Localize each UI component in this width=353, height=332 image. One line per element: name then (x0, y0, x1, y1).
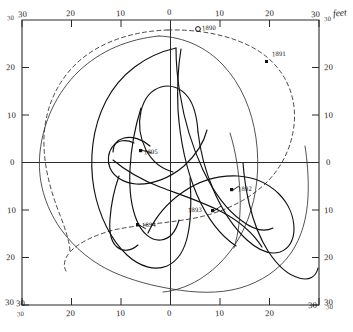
tick-label-bottom-4: 0 (167, 308, 172, 318)
polar-wander-chart: 30 20 10 0 10 20 30 30 30 feet 30 20 10 … (0, 0, 353, 332)
tick-label-right-3: 0 (326, 157, 331, 167)
top-axis-ticks (22, 20, 319, 27)
tick-label-top-7: 30 (311, 9, 321, 19)
tick-label-left-5: 20 (6, 252, 16, 262)
tick-label-left-4: 10 (7, 205, 17, 215)
annotation-1890: 1890 (202, 24, 216, 31)
tick-label-left-2: 10 (7, 110, 17, 120)
corner-label-top-left: 30 (7, 14, 14, 21)
tick-label-top-5: 10 (215, 8, 225, 18)
annotation-1891: 1891 (272, 50, 286, 57)
tick-label-bottom-2: 20 (66, 308, 76, 318)
bottom-axis-ticks (22, 298, 319, 305)
tick-label-top-1: 30 (18, 9, 28, 19)
curve-1895 (108, 130, 207, 184)
tick-label-right-1: 20 (324, 62, 334, 72)
tick-label-bottom-5: 10 (215, 308, 225, 318)
curve-1892-tail (243, 163, 318, 279)
annotation-1892: 1892 (238, 185, 252, 192)
tick-label-top-6: 20 (265, 8, 275, 18)
tick-label-bottom-3: 10 (116, 308, 126, 318)
tick-label-top-2: 20 (66, 8, 76, 18)
tick-label-top-3: 10 (116, 8, 126, 18)
annotation-1894: 1894 (142, 221, 156, 228)
tick-label-bottom-7: 30 (308, 300, 318, 310)
tick-label-right-5: 20 (324, 252, 334, 262)
tick-label-left-6: 30 (5, 297, 15, 307)
tick-label-right-4: 10 (324, 205, 334, 215)
curve-1892 (92, 48, 273, 268)
corner-label-top-right: 30 (324, 15, 331, 22)
chart-svg (0, 0, 353, 332)
tick-label-left-3: 0 (10, 157, 15, 167)
tick-label-bottom-6: 20 (265, 308, 275, 318)
annotation-1895: 1895 (144, 148, 158, 155)
annotation-1893: 1893 (188, 206, 202, 213)
tick-label-right-2: 10 (324, 110, 334, 120)
tick-label-top-4: 0 (167, 7, 172, 17)
tick-label-left-1: 20 (6, 62, 16, 72)
tick-label-bottom-1: 30 (16, 298, 26, 308)
axis-cross (22, 20, 319, 305)
curve-1891 (39, 36, 308, 292)
corner-label-bottom-left: 30 (17, 310, 24, 317)
unit-label-feet: feet (333, 7, 348, 18)
left-axis-ticks (22, 68, 29, 306)
tick-label-right-6: 30 (324, 297, 334, 307)
